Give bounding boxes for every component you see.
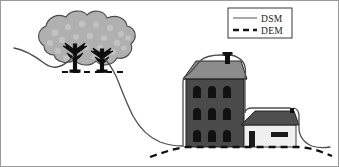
profile-illustration: DSM DEM bbox=[0, 0, 339, 167]
legend-box: DSM DEM bbox=[228, 8, 292, 38]
main-building bbox=[183, 52, 247, 147]
legend-label-dsm: DSM bbox=[261, 14, 283, 24]
legend-label-dem: DEM bbox=[261, 26, 283, 36]
main-building-windows bbox=[193, 86, 231, 142]
annex-door bbox=[249, 131, 255, 147]
annex-chimney bbox=[290, 108, 294, 113]
figure-container: DSM DEM bbox=[0, 0, 339, 167]
annex-window bbox=[271, 132, 288, 137]
